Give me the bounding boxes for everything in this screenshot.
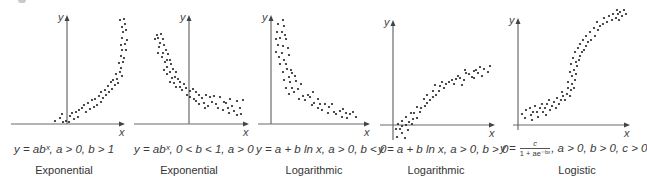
formula-prefix: y = [500, 142, 519, 154]
data-point [407, 129, 409, 131]
data-point [349, 113, 351, 115]
data-point [556, 97, 558, 99]
data-point [530, 114, 532, 116]
data-point [321, 109, 323, 111]
data-point [549, 109, 551, 111]
data-point [154, 38, 156, 40]
data-point [123, 57, 125, 59]
data-point [89, 108, 91, 110]
data-point [201, 97, 203, 99]
data-point [195, 100, 197, 102]
data-point [167, 53, 169, 55]
data-point [560, 99, 562, 101]
data-point [455, 78, 457, 80]
formula-suffix: , a > 0, b > 0, c > 0 [551, 142, 647, 154]
data-point [355, 116, 357, 118]
data-point [302, 95, 304, 97]
panel-logistic: yx [508, 9, 630, 139]
data-point [233, 110, 235, 112]
y-axis-arrow-icon [391, 20, 396, 26]
data-point [228, 112, 230, 114]
data-point [342, 108, 344, 110]
data-point [410, 112, 412, 114]
data-point [288, 93, 290, 95]
data-point [117, 82, 119, 84]
data-point [546, 103, 548, 105]
data-point [282, 45, 284, 47]
data-point [177, 78, 179, 80]
data-point [183, 83, 185, 85]
data-point [571, 83, 573, 85]
data-point [242, 99, 244, 101]
data-point [104, 89, 106, 91]
data-point [401, 132, 403, 134]
data-point [578, 59, 580, 61]
formula-text: y = a + b ln x, a > 0, b > 0 [378, 143, 508, 155]
data-point [603, 17, 605, 19]
panel-log-decreasing-caption: Logarithmic [264, 164, 364, 176]
data-point [548, 99, 550, 101]
data-point [165, 49, 167, 51]
data-point [558, 103, 560, 105]
data-point [404, 137, 406, 139]
y-axis-arrow-icon [187, 15, 192, 21]
data-point [529, 107, 531, 109]
data-point [468, 73, 470, 75]
data-point [579, 55, 581, 57]
data-point [477, 72, 479, 74]
data-point [432, 96, 434, 98]
data-point [483, 68, 485, 70]
data-point [219, 96, 221, 98]
panel-log-decreasing: yx [258, 11, 370, 138]
data-point [285, 87, 287, 89]
x-axis-label: x [488, 127, 495, 139]
data-point [293, 91, 295, 93]
data-point [473, 77, 475, 79]
data-point [426, 102, 428, 104]
data-point [423, 98, 425, 100]
data-point [562, 95, 564, 97]
data-point [541, 103, 543, 105]
panel-log-decreasing-formula: y = a + b ln x, a > 0, b < 0 [256, 143, 372, 155]
data-point [195, 91, 197, 93]
data-point [162, 52, 164, 54]
data-point [339, 110, 341, 112]
data-point [286, 68, 288, 70]
data-point [579, 43, 581, 45]
data-point [236, 100, 238, 102]
data-point [275, 51, 277, 53]
data-point [78, 109, 80, 111]
x-axis-label: x [242, 126, 249, 138]
data-point [324, 103, 326, 105]
data-point [207, 105, 209, 107]
data-point [582, 39, 584, 41]
data-point [162, 38, 164, 40]
data-point [608, 15, 610, 17]
data-point [121, 26, 123, 28]
data-point [461, 84, 463, 86]
data-point [333, 111, 335, 113]
data-point [158, 46, 160, 48]
data-point [119, 71, 121, 73]
data-point [283, 79, 285, 81]
data-point [537, 116, 539, 118]
data-point [300, 83, 302, 85]
data-point [464, 69, 466, 71]
data-point [174, 76, 176, 78]
data-point [110, 81, 112, 83]
data-point [164, 61, 166, 63]
data-point [434, 84, 436, 86]
data-point [401, 120, 403, 122]
data-point [401, 125, 403, 127]
data-point [345, 112, 347, 114]
data-point [166, 73, 168, 75]
data-point [160, 33, 162, 35]
data-point [395, 128, 397, 130]
data-point [574, 79, 576, 81]
data-point [290, 69, 292, 71]
data-point [291, 87, 293, 89]
data-point [59, 117, 61, 119]
data-point [420, 107, 422, 109]
data-point [93, 106, 95, 108]
